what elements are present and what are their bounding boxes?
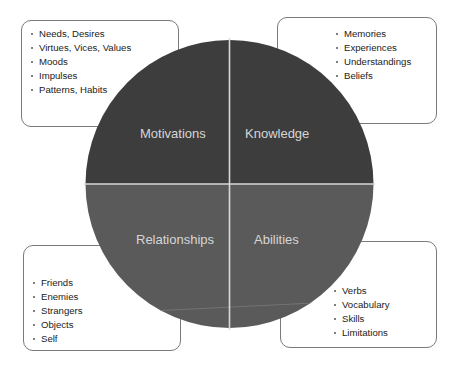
quadrant-label-relationships: Relationships	[136, 232, 214, 247]
quadrant-label-knowledge: Knowledge	[245, 126, 309, 141]
quadrant-label-abilities: Abilities	[254, 232, 299, 247]
quadrant-circle	[0, 0, 459, 369]
quadrant-label-motivations: Motivations	[140, 126, 206, 141]
